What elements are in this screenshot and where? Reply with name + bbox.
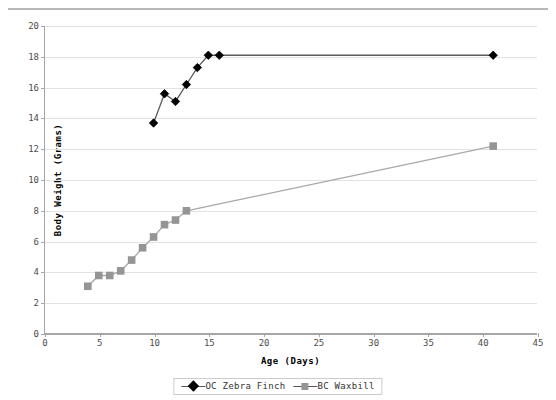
- top-divider-rule: [8, 8, 548, 10]
- y-axis-tick-label: 20: [28, 22, 39, 31]
- x-axis-tick-label: 0: [42, 339, 47, 348]
- square-marker-icon: [128, 256, 136, 264]
- square-marker-icon: [489, 142, 497, 150]
- diamond-marker-icon: [171, 97, 179, 105]
- y-axis-tick-label: 8: [34, 206, 39, 215]
- diamond-marker-icon: [489, 51, 497, 59]
- y-axis-tick-label: 18: [28, 52, 39, 61]
- y-axis-tick-label: 4: [34, 268, 39, 277]
- chart-legend: OC Zebra Finch BC Waxbill: [173, 378, 382, 395]
- x-axis-title: Age (Days): [44, 356, 537, 366]
- x-axis-tick-label: 20: [259, 339, 270, 348]
- data-series-layer: [44, 26, 537, 334]
- square-marker-icon: [150, 233, 158, 241]
- x-axis-tick-label: 5: [97, 339, 102, 348]
- legend-label-finch: OC Zebra Finch: [205, 381, 285, 391]
- diamond-marker-icon: [160, 90, 168, 98]
- square-marker-icon: [139, 244, 147, 252]
- square-marker-icon: [161, 221, 169, 229]
- legend-entry-finch[interactable]: OC Zebra Finch: [181, 381, 285, 392]
- y-axis-tick-label: 10: [28, 176, 39, 185]
- diamond-marker-icon: [149, 119, 157, 127]
- x-axis-tick-label: 10: [149, 339, 160, 348]
- square-marker-icon: [183, 207, 191, 215]
- y-axis-tick-label: 2: [34, 299, 39, 308]
- legend-entry-waxbill[interactable]: BC Waxbill: [293, 381, 374, 392]
- square-marker-icon: [95, 272, 103, 280]
- x-axis-tick-label: 30: [368, 339, 379, 348]
- x-axis-tick-label: 40: [478, 339, 489, 348]
- y-axis-tick-label: 6: [34, 237, 39, 246]
- y-axis-tick-label: 12: [28, 145, 39, 154]
- legend-label-waxbill: BC Waxbill: [317, 381, 374, 391]
- y-axis-tick-label: 16: [28, 83, 39, 92]
- x-axis-tick-label: 15: [204, 339, 215, 348]
- x-axis-tick: [538, 333, 539, 337]
- x-axis-tick-label: 25: [313, 339, 324, 348]
- square-marker-icon: [106, 272, 114, 280]
- series-line-diamond: [154, 55, 494, 123]
- chart-container: Body Weight (Grams) 02468101214161820051…: [0, 0, 556, 400]
- diamond-marker-icon: [181, 381, 205, 392]
- y-axis-tick-label: 14: [28, 114, 39, 123]
- series-line-square: [88, 146, 493, 286]
- diamond-marker-icon: [182, 80, 190, 88]
- square-marker-icon: [117, 267, 125, 275]
- square-marker-icon: [293, 381, 317, 392]
- y-axis-tick-label: 0: [34, 330, 39, 339]
- square-marker-icon: [172, 216, 180, 224]
- diamond-marker-icon: [215, 51, 223, 59]
- square-marker-icon: [84, 282, 92, 290]
- x-axis-tick-label: 35: [423, 339, 434, 348]
- x-axis-tick-label: 45: [533, 339, 544, 348]
- y-gridline: [45, 334, 537, 335]
